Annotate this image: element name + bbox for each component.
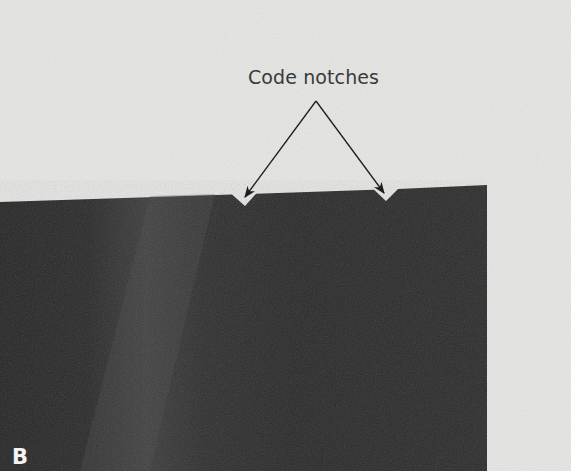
- figure-panel: Code notches B: [0, 0, 571, 471]
- annotation-label: Code notches: [248, 66, 379, 88]
- panel-label: B: [12, 445, 28, 469]
